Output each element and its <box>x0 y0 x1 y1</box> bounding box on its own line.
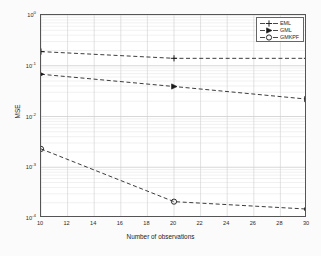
data-point-gml-30 <box>305 97 306 102</box>
y-tick-label-0: 100 <box>14 10 36 18</box>
x-tick-label-8: 26 <box>243 220 263 226</box>
legend-item-gml[interactable]: GML <box>259 27 301 34</box>
x-tick-label-1: 12 <box>57 220 77 226</box>
data-point-eml-20 <box>171 55 177 61</box>
legend-swatch-gml <box>259 27 279 34</box>
data-point-gmkpf-20 <box>171 199 176 204</box>
legend-swatch-eml <box>259 20 279 27</box>
x-tick-label-6: 22 <box>190 220 210 226</box>
data-point-gml-20 <box>172 84 177 89</box>
plot-area <box>40 14 306 217</box>
y-tick-label-3: 10-3 <box>14 162 36 170</box>
legend-item-gmkpf[interactable]: GMKPF <box>259 34 301 41</box>
x-axis-title: Number of observations <box>0 233 321 240</box>
legend-item-eml[interactable]: EML <box>259 20 301 27</box>
x-tick-label-3: 16 <box>110 220 130 226</box>
series-line-gmkpf <box>41 149 306 209</box>
legend-label-eml: EML <box>279 20 291 27</box>
x-tick-label-0: 10 <box>30 220 50 226</box>
data-point-gml-10 <box>41 72 44 77</box>
legend-swatch-gmkpf <box>259 34 279 41</box>
x-tick-label-9: 28 <box>269 220 289 226</box>
data-point-gmkpf-30 <box>304 206 306 211</box>
series-line-eml <box>41 52 306 59</box>
data-point-eml-10 <box>41 49 44 55</box>
x-tick-label-7: 24 <box>216 220 236 226</box>
y-axis-title: MSE <box>14 82 21 142</box>
x-tick-label-10: 30 <box>296 220 316 226</box>
data-layer <box>41 15 306 217</box>
x-tick-label-2: 14 <box>83 220 103 226</box>
x-tick-label-5: 20 <box>163 220 183 226</box>
legend[interactable]: EMLGMLGMKPF <box>256 17 304 42</box>
data-point-eml-30 <box>304 55 306 61</box>
y-tick-label-1: 10-1 <box>14 61 36 69</box>
legend-label-gmkpf: GMKPF <box>279 34 299 41</box>
x-tick-label-4: 18 <box>136 220 156 226</box>
legend-label-gml: GML <box>279 27 292 34</box>
figure-canvas: 10010-110-210-310-4 10121416182022242628… <box>0 0 321 256</box>
